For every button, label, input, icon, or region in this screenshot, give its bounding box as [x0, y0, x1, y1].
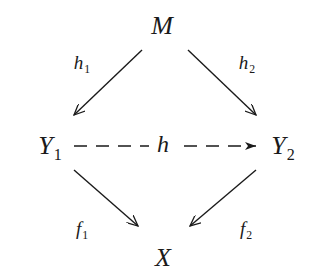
edge-label-h2-subscript: 2: [249, 63, 255, 76]
edge-label-h: h: [149, 132, 177, 156]
node-y1: Y1: [38, 133, 62, 163]
edge-label-h1: h1: [74, 53, 90, 76]
commutative-diagram: M Y1 Y2 X h1 h2 h f1 f2: [0, 0, 313, 278]
node-y2: Y2: [271, 133, 295, 163]
node-x: X: [155, 245, 171, 271]
edge-label-h-text: h: [157, 131, 169, 157]
edge-label-f1-text: f: [76, 218, 81, 239]
edge-label-h1-text: h: [74, 52, 84, 73]
node-m-label: M: [151, 11, 173, 40]
edge-label-h2: h2: [239, 53, 255, 76]
edge-label-h1-subscript: 1: [84, 63, 90, 76]
node-y1-subscript: 1: [54, 146, 62, 163]
edge-label-f1-subscript: 1: [82, 229, 88, 242]
edge-label-f2: f2: [240, 219, 252, 242]
edge-label-f2-text: f: [240, 218, 245, 239]
node-m: M: [151, 13, 173, 39]
edge-label-h2-text: h: [239, 52, 249, 73]
edge-label-f1: f1: [76, 219, 88, 242]
node-y2-label: Y: [271, 131, 285, 160]
node-y2-subscript: 2: [287, 146, 295, 163]
edge-label-f2-subscript: 2: [246, 229, 252, 242]
node-x-label: X: [155, 243, 171, 272]
node-y1-label: Y: [38, 131, 52, 160]
